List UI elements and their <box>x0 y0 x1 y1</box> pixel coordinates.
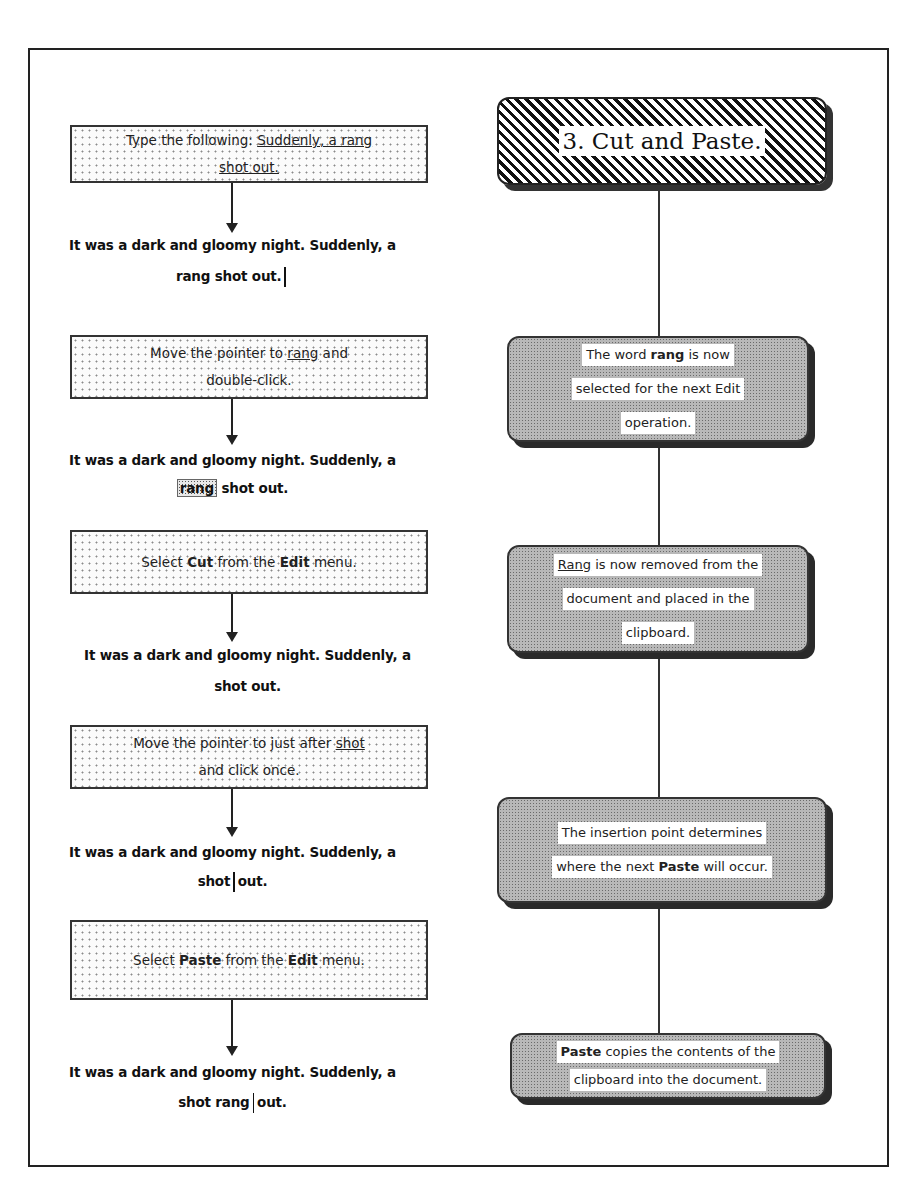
step-5-instruction: Select Paste from the Edit menu. <box>70 920 428 1000</box>
arrow-down-icon <box>231 594 233 640</box>
insertion-cursor <box>253 1093 255 1113</box>
typed-text: Suddenly, a rang <box>257 132 372 148</box>
note-selection: The word rang is now selected for the ne… <box>507 336 809 442</box>
note-paste: Paste copies the contents of the clipboa… <box>510 1033 826 1099</box>
step-5-result: It was a dark and gloomy night. Suddenly… <box>40 1057 425 1117</box>
typed-text: shot out. <box>219 159 279 175</box>
title-banner: 3. Cut and Paste. <box>497 97 827 185</box>
step-2-result: It was a dark and gloomy night. Suddenly… <box>40 446 425 502</box>
arrow-down-icon <box>231 789 233 835</box>
insertion-cursor <box>284 267 286 287</box>
step-4-result: It was a dark and gloomy night. Suddenly… <box>40 838 425 896</box>
step-4-instruction: Move the pointer to just after shot and … <box>70 725 428 789</box>
step-3-result: It was a dark and gloomy night. Suddenly… <box>55 640 440 702</box>
selected-word: rang <box>177 479 217 497</box>
step-3-instruction: Select Cut from the Edit menu. <box>70 530 428 594</box>
step-1-result: It was a dark and gloomy night. Suddenly… <box>40 230 425 292</box>
insertion-cursor <box>233 872 235 892</box>
arrow-down-icon <box>231 183 233 231</box>
arrow-down-icon <box>231 399 233 443</box>
step-1-instruction: Type the following: Suddenly, a rang sho… <box>70 125 428 183</box>
note-cut: Rang is now removed from the document an… <box>507 545 809 653</box>
arrow-down-icon <box>231 1000 233 1054</box>
note-insertion-point: The insertion point determines where the… <box>497 797 827 903</box>
page-title: 3. Cut and Paste. <box>559 126 766 156</box>
step-2-instruction: Move the pointer to rang and double-clic… <box>70 335 428 399</box>
